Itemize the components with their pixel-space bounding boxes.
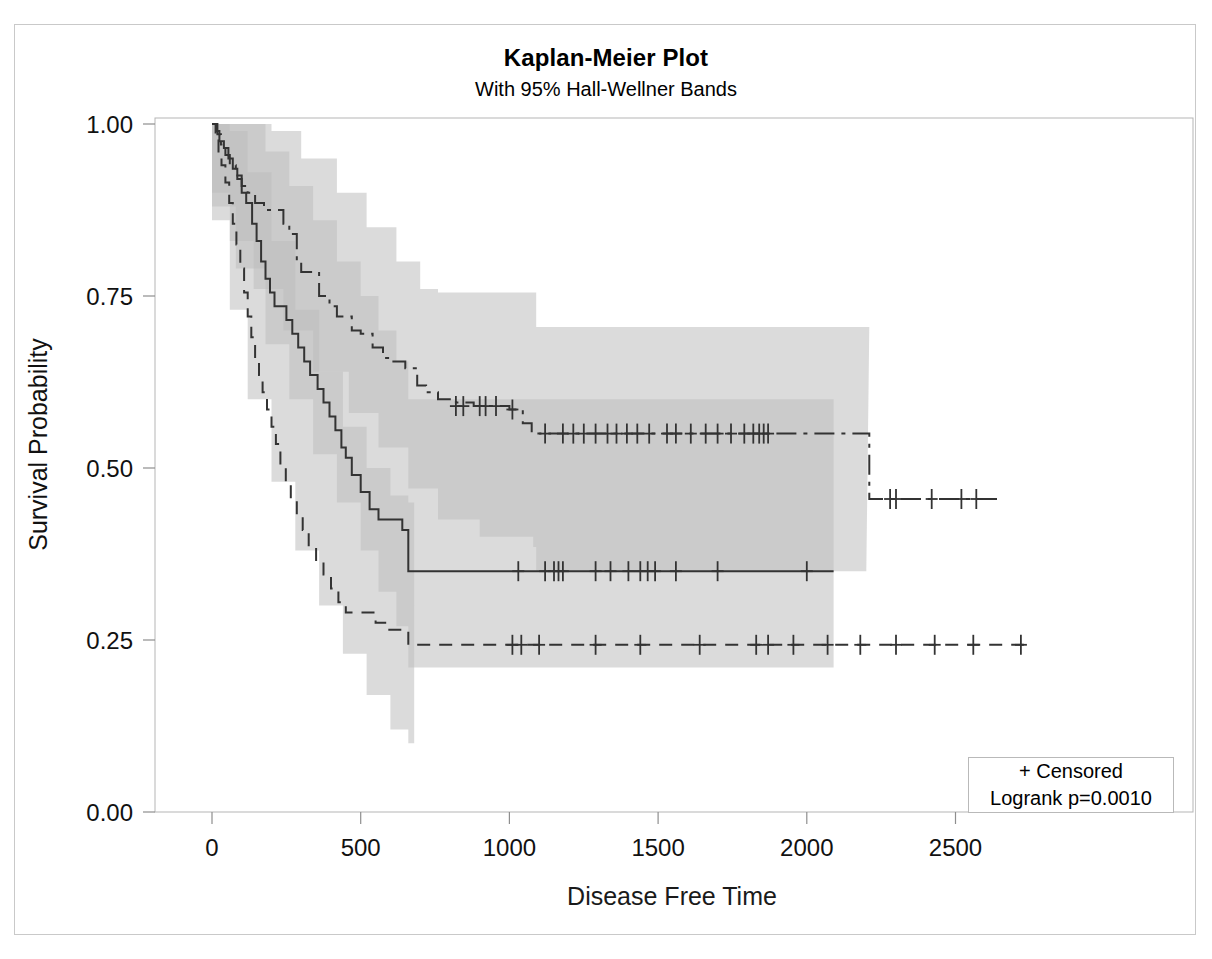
censored-mark bbox=[890, 635, 902, 655]
chart-page: Kaplan-Meier Plot With 95% Hall-Wellner … bbox=[0, 0, 1212, 959]
censored-mark bbox=[970, 489, 982, 509]
censored-mark bbox=[967, 635, 979, 655]
x-tick-label: 2500 bbox=[929, 834, 982, 861]
censored-mark bbox=[890, 489, 902, 509]
y-tick-label: 0.25 bbox=[86, 627, 133, 654]
censored-mark bbox=[929, 635, 941, 655]
censored-mark bbox=[955, 489, 967, 509]
censored-mark bbox=[1015, 635, 1027, 655]
x-tick-label: 2000 bbox=[780, 834, 833, 861]
censored-mark bbox=[926, 489, 938, 509]
y-tick-label: 0.00 bbox=[86, 799, 133, 826]
legend-censored: + Censored bbox=[969, 758, 1173, 785]
x-axis-title: Disease Free Time bbox=[567, 882, 777, 910]
x-tick-label: 1500 bbox=[631, 834, 684, 861]
kaplan-meier-plot: 050010001500200025000.000.250.500.751.00… bbox=[0, 0, 1212, 959]
legend-logrank: Logrank p=0.0010 bbox=[969, 785, 1173, 812]
y-tick-label: 1.00 bbox=[86, 111, 133, 138]
x-tick-label: 500 bbox=[341, 834, 381, 861]
x-tick-label: 1000 bbox=[483, 834, 536, 861]
legend-box: + Censored Logrank p=0.0010 bbox=[968, 757, 1174, 813]
censored-mark bbox=[854, 635, 866, 655]
y-tick-label: 0.50 bbox=[86, 455, 133, 482]
y-tick-label: 0.75 bbox=[86, 283, 133, 310]
x-tick-label: 0 bbox=[205, 834, 218, 861]
